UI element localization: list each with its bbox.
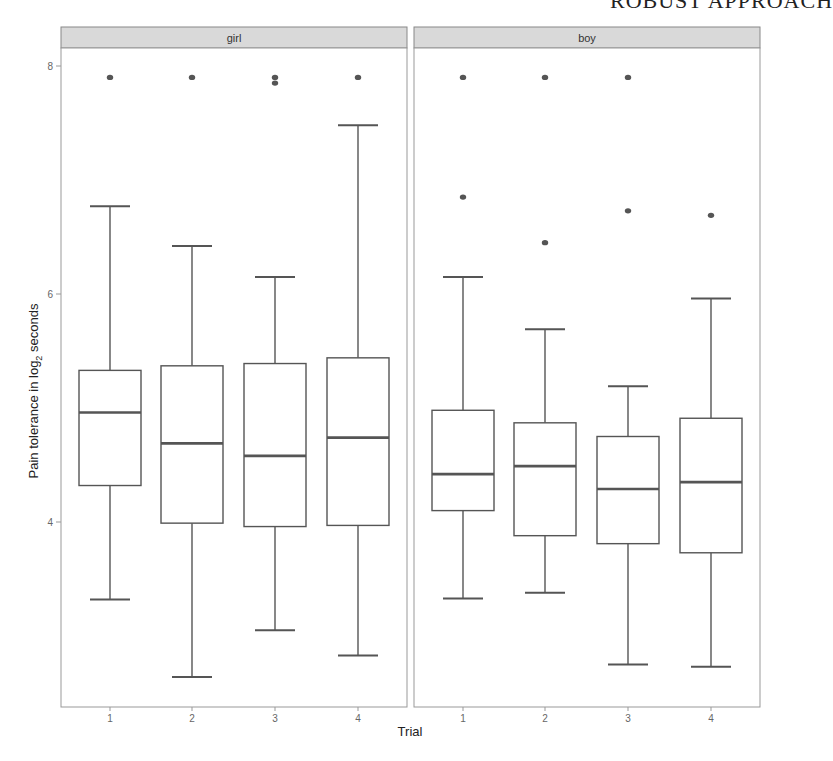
x-axis-title: Trial bbox=[398, 724, 423, 739]
iqr-box bbox=[680, 418, 742, 553]
x-tick-label: 1 bbox=[107, 713, 113, 724]
x-tick-label: 4 bbox=[355, 713, 361, 724]
iqr-box bbox=[432, 410, 494, 510]
x-tick-label: 2 bbox=[542, 713, 548, 724]
outlier-point bbox=[189, 75, 195, 80]
outlier-point bbox=[460, 75, 466, 80]
x-tick-label: 1 bbox=[460, 713, 466, 724]
outlier-point bbox=[460, 195, 466, 200]
y-tick-label: 4 bbox=[47, 517, 53, 528]
facet-strip-label: girl bbox=[227, 32, 242, 44]
outlier-point bbox=[708, 213, 714, 218]
outlier-point bbox=[625, 208, 631, 213]
x-tick-label: 2 bbox=[189, 713, 195, 724]
outlier-point bbox=[355, 75, 361, 80]
iqr-box bbox=[244, 364, 306, 527]
iqr-box bbox=[514, 423, 576, 536]
y-axis-title: Pain tolerance in log2 seconds bbox=[26, 303, 44, 478]
outlier-point bbox=[542, 240, 548, 245]
x-tick-label: 3 bbox=[625, 713, 631, 724]
facet-panel-girl: girl1234 bbox=[61, 27, 407, 724]
outlier-point bbox=[625, 75, 631, 80]
outlier-point bbox=[272, 81, 278, 86]
y-axis: 468 bbox=[47, 61, 61, 528]
facet-panel-boy: boy1234 bbox=[414, 27, 760, 724]
y-tick-label: 8 bbox=[47, 61, 53, 72]
facet-strip-label: boy bbox=[578, 32, 596, 44]
iqr-box bbox=[327, 358, 389, 526]
y-tick-label: 6 bbox=[47, 289, 53, 300]
x-tick-label: 4 bbox=[708, 713, 714, 724]
outlier-point bbox=[272, 75, 278, 80]
iqr-box bbox=[79, 370, 141, 485]
facet-panels: girl1234boy1234 bbox=[61, 27, 760, 724]
panel-frame bbox=[414, 48, 760, 707]
outlier-point bbox=[107, 75, 113, 80]
y-axis-title-main: Pain tolerance in log bbox=[26, 361, 41, 479]
x-tick-label: 3 bbox=[272, 713, 278, 724]
y-axis-title-tail: seconds bbox=[26, 303, 41, 356]
outlier-point bbox=[542, 75, 548, 80]
